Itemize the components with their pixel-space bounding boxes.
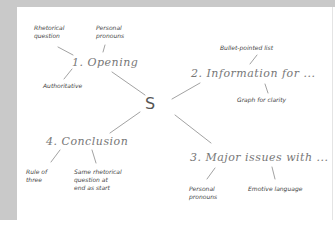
line-major-pronouns <box>207 168 215 179</box>
conclusion-child-rule-of-three: Rule of three <box>26 168 47 184</box>
opening-child-rhetorical-question: Rhetorical question <box>34 24 64 40</box>
branch-information: 2. Information for ... <box>191 67 315 80</box>
label-line: Rule of <box>26 168 47 176</box>
label-line: question at <box>74 176 122 184</box>
major-child-emotive-language: Emotive language <box>248 185 302 193</box>
branch-opening: 1. Opening <box>72 56 138 69</box>
line-center-opening <box>112 72 145 95</box>
line-info-bullet <box>250 55 257 64</box>
branch-conclusion: 4. Conclusion <box>46 135 128 148</box>
label-line: pronouns <box>96 32 124 40</box>
line-info-graph <box>265 84 268 93</box>
opening-child-authoritative: Authoritative <box>43 82 82 90</box>
center-node: S <box>145 94 155 113</box>
line-opening-authoritative <box>64 69 72 79</box>
line-opening-rhetorical <box>58 47 73 55</box>
opening-child-personal-pronouns: Personal pronouns <box>96 24 124 40</box>
information-child-bullet-list: Bullet-pointed list <box>220 44 273 52</box>
branch-major-issues: 3. Major issues with ... <box>190 151 329 164</box>
line-center-conclusion <box>110 112 140 133</box>
line-center-information <box>172 83 200 99</box>
label-line: pronouns <box>189 193 217 201</box>
label-line: Rhetorical <box>34 24 64 32</box>
major-child-personal-pronouns: Personal pronouns <box>189 185 217 201</box>
line-conclusion-same <box>92 150 96 163</box>
label-line: Personal <box>189 185 217 193</box>
label-line: Personal <box>96 24 124 32</box>
label-line: Same rhetorical <box>74 168 122 176</box>
information-child-graph: Graph for clarity <box>237 96 286 104</box>
label-line: question <box>34 32 64 40</box>
label-line: three <box>26 176 47 184</box>
line-major-emotive <box>272 167 275 179</box>
conclusion-child-same-question: Same rhetorical question at end as start <box>74 168 122 192</box>
line-conclusion-rule <box>51 150 60 162</box>
line-center-major <box>175 115 211 143</box>
line-opening-pronouns <box>103 45 105 52</box>
label-line: end as start <box>74 184 122 192</box>
